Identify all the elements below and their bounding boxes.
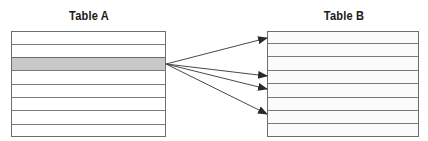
arrow-to-b-row-6 xyxy=(166,64,267,114)
arrow-to-b-row-4 xyxy=(166,64,267,89)
relationship-arrows xyxy=(0,0,428,141)
arrow-to-b-row-3 xyxy=(166,64,267,76)
arrow-to-b-row-0 xyxy=(166,38,267,64)
